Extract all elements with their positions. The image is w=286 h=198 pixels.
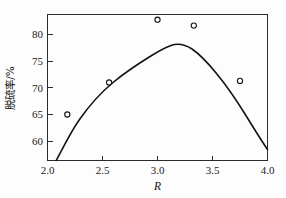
x-axis-ticks — [48, 156, 268, 161]
y-tick-label: 80 — [32, 28, 44, 40]
data-point — [155, 17, 160, 22]
x-tick-label: 3.5 — [206, 164, 220, 176]
y-tick-label: 75 — [32, 55, 44, 67]
data-points — [65, 17, 243, 117]
y-tick-label: 65 — [32, 108, 44, 120]
x-axis-title: R — [153, 180, 161, 192]
data-point — [107, 80, 112, 85]
x-tick-label: 2.0 — [41, 164, 55, 176]
y-axis-tick-labels: 60 65 70 75 80 — [32, 28, 44, 147]
data-point — [237, 78, 242, 83]
y-tick-label: 70 — [32, 82, 44, 94]
x-tick-label: 2.5 — [96, 164, 110, 176]
y-axis-title: 脱硫率/% — [4, 66, 16, 110]
desulfurization-rate-vs-R-chart: 60 65 70 75 80 2.0 2.5 3.0 3.5 4.0 R 脱硫率… — [0, 0, 286, 198]
x-axis-tick-labels: 2.0 2.5 3.0 3.5 4.0 — [41, 164, 275, 176]
x-tick-label: 4.0 — [261, 164, 275, 176]
x-tick-label: 3.0 — [151, 164, 165, 176]
data-point — [65, 112, 70, 117]
y-tick-label: 60 — [32, 135, 44, 147]
fitted-curve — [56, 44, 267, 160]
chart-figure: 60 65 70 75 80 2.0 2.5 3.0 3.5 4.0 R 脱硫率… — [0, 0, 286, 198]
y-axis-title-text: 脱硫率/% — [4, 66, 16, 110]
data-point — [191, 23, 196, 28]
y-axis-ticks — [48, 34, 53, 141]
plot-frame — [48, 15, 268, 161]
